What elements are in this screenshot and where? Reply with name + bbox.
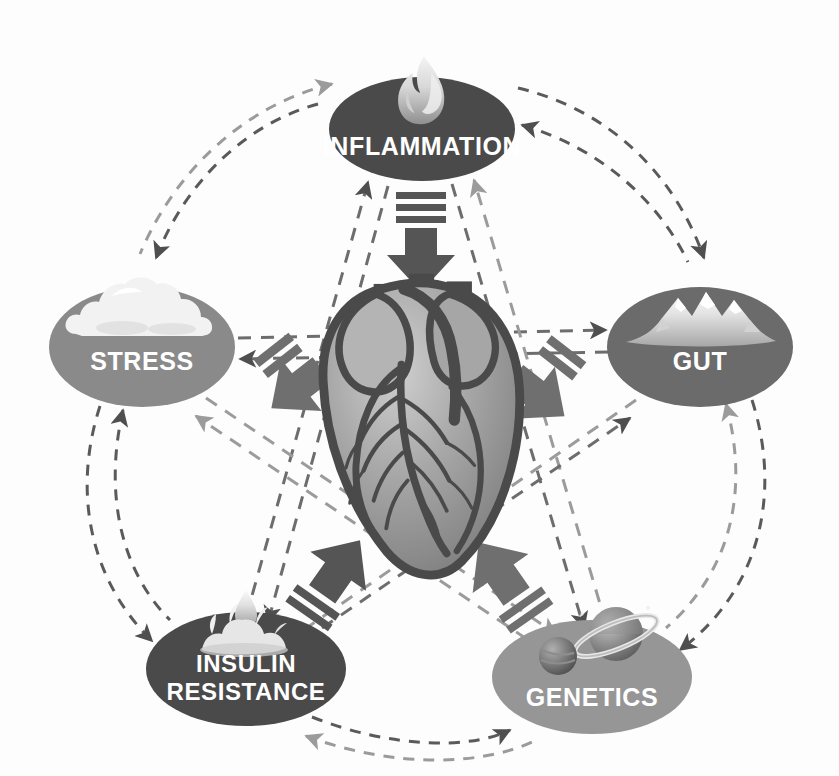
- center-heart[interactable]: [323, 274, 520, 575]
- arc-gut-to-genetics: [680, 400, 765, 650]
- arc-gut-to-inflammation: [522, 125, 688, 262]
- arc-insulin-resistance-to-genetics: [312, 717, 510, 743]
- node-gut[interactable]: GUT: [607, 287, 793, 407]
- motion-line: [396, 204, 446, 211]
- connection-stress-insulin-resistance[interactable]: [87, 406, 170, 641]
- node-inflammation-label: INFLAMMATION: [323, 132, 521, 160]
- node-inflammation[interactable]: INFLAMMATION: [323, 56, 521, 181]
- connection-inflammation-stress[interactable]: [140, 84, 332, 258]
- flame-icon: [398, 56, 444, 124]
- node-insulin-resistance[interactable]: INSULIN RESISTANCE: [146, 590, 346, 726]
- node-gut-label: GUT: [673, 347, 728, 375]
- node-genetics-label: GENETICS: [526, 683, 659, 711]
- node-insulin-resistance-label-line2: RESISTANCE: [167, 678, 326, 705]
- risk-factor-network-diagram: INFLAMMATION STRESS GUT: [0, 0, 839, 776]
- node-insulin-resistance-label-line1: INSULIN: [196, 650, 296, 677]
- arc-inflammation-to-gut: [518, 88, 704, 258]
- cloud-icon: [65, 277, 212, 336]
- arc-stress-to-insulin-resistance: [87, 406, 152, 641]
- connection-inflammation-gut[interactable]: [518, 88, 704, 262]
- diagram-canvas: INFLAMMATION STRESS GUT: [0, 0, 839, 776]
- arc-genetics-to-gut: [666, 404, 736, 628]
- arc-insulin-resistance-to-stress: [115, 410, 170, 620]
- arc-stress-to-inflammation: [140, 84, 332, 254]
- motion-line: [396, 192, 446, 199]
- arc-genetics-to-insulin-resistance: [306, 736, 532, 760]
- connection-insulin-resistance-genetics[interactable]: [306, 717, 532, 760]
- connection-gut-genetics[interactable]: [666, 400, 765, 650]
- node-stress-label: STRESS: [90, 347, 194, 375]
- motion-line: [396, 216, 446, 223]
- anatomical-heart-icon: [323, 274, 520, 575]
- node-stress[interactable]: STRESS: [49, 277, 235, 407]
